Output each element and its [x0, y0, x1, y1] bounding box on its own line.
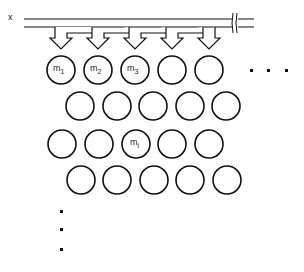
unit-circle — [195, 56, 223, 84]
unit-label: m3 — [127, 63, 139, 75]
arrow-down-icon — [50, 27, 92, 49]
arrow-down-icon — [161, 27, 203, 49]
input-bus — [24, 19, 254, 27]
neuron-grid-diagram: x m1 m2 m3 — [0, 0, 304, 272]
unit-circle — [158, 130, 186, 158]
unit-label-mi: mi — [130, 137, 140, 149]
unit-circle — [103, 166, 131, 194]
horizontal-ellipsis — [250, 69, 288, 72]
row-1-labels: m1 m2 m3 — [53, 63, 139, 75]
row-4 — [67, 166, 241, 194]
unit-circle — [212, 92, 240, 120]
unit-circle — [85, 130, 113, 158]
unit-label: m1 — [53, 63, 65, 75]
unit-circle — [67, 166, 95, 194]
input-x-label: x — [8, 12, 13, 22]
unit-circle — [66, 92, 94, 120]
arrow-down-icon — [124, 27, 166, 49]
arrows — [50, 27, 220, 49]
unit-circle — [176, 166, 204, 194]
arrow-down-icon — [87, 27, 129, 49]
unit-circle — [103, 92, 131, 120]
unit-circle — [139, 92, 167, 120]
unit-label: m2 — [90, 63, 102, 75]
unit-circle — [158, 56, 186, 84]
unit-circle — [140, 166, 168, 194]
vertical-ellipsis — [60, 210, 63, 251]
row-2 — [66, 92, 240, 120]
unit-circle — [48, 130, 76, 158]
bus-break-icon — [232, 13, 238, 33]
unit-circle — [213, 166, 241, 194]
unit-circle — [176, 92, 204, 120]
unit-circle — [195, 130, 223, 158]
